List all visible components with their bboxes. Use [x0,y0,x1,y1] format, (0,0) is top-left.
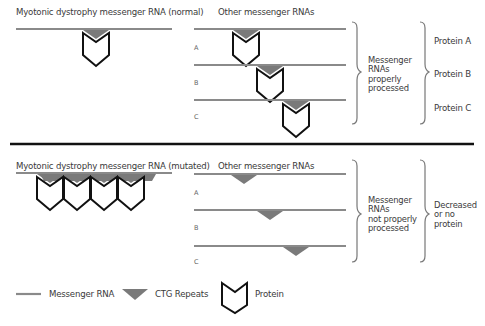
ctg-repeat-icon [231,175,257,184]
legend-ctg-repeats-label: CTG Repeats [155,289,208,299]
legend-messenger-rna-label: Messenger RNA [49,289,114,299]
row-label-a: A [194,189,198,197]
normal-dm-rna [16,29,172,66]
other-rnas-title: Other messenger RNAs [218,7,314,17]
row-label-b: B [194,224,198,232]
row-label-a: A [194,44,198,52]
other-rnas-bottom [194,174,346,256]
mutated-dm-rna [16,173,172,210]
protein-chevron-icon [222,283,247,313]
other-rnas-title-bottom: Other messenger RNAs [218,161,314,171]
bracket-icon [420,160,429,262]
outcome-protein-b: Protein B [434,69,471,79]
properly-processed-label: Messenger RNAs properly processed [368,56,412,94]
ctg-repeat-icon [283,247,309,256]
outcome-protein-a: Protein A [434,36,471,46]
bracket-icon [420,22,429,124]
row-label-c: C [194,113,199,121]
ctg-repeat-icon [257,211,283,220]
not-properly-processed-label: Messenger RNAs not properly processed [368,196,417,234]
outcome-protein-c: Protein C [434,103,471,113]
ctg-repeat-triangle-icon [122,289,148,300]
row-label-b: B [194,79,198,87]
mutated-rna-title: Myotonic dystrophy messenger RNA (mutate… [16,161,210,171]
bracket-icon [352,160,361,262]
legend-protein-label: Protein [255,289,284,299]
decreased-protein-label: Decreased or no protein [434,201,477,229]
normal-rna-title: Myotonic dystrophy messenger RNA (normal… [16,7,203,17]
row-label-c: C [194,258,199,266]
bracket-icon [352,22,361,124]
other-rnas-top [194,29,346,137]
